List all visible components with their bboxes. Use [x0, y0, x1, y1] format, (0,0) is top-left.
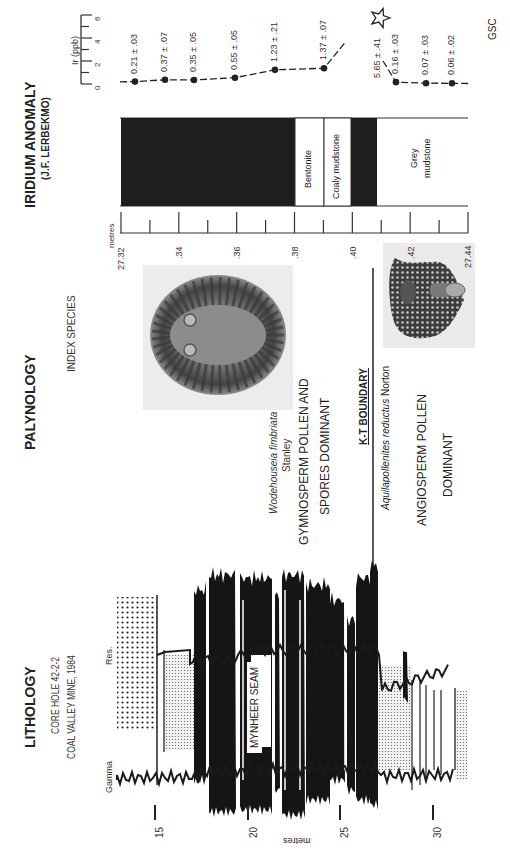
litho-tick-30: 30 — [432, 827, 443, 838]
unit-coal-upper — [121, 118, 295, 206]
depth-tick-6: 27.44 — [463, 245, 473, 268]
bentonite-label: Bentonite — [303, 150, 313, 188]
core-hole-label: CORE HOLE 42-2-2 — [50, 657, 61, 734]
grey-mudstone-label: Grey mudstone — [408, 138, 434, 178]
litho-axis-label: metres — [283, 836, 311, 846]
depth-tick-5: .42 — [406, 246, 416, 259]
wodehouseia-image — [143, 265, 293, 410]
zone-lower-line2: DOMINANT — [441, 433, 455, 497]
lithology-title: LITHOLOGY — [22, 666, 38, 748]
unit-siltstone-bottom — [455, 690, 467, 780]
ir-value-label: 0.16 ± .03 — [390, 34, 400, 74]
ir-data-point — [162, 76, 169, 83]
gamma-label: Gamma — [104, 761, 114, 793]
litho-tick-20: 20 — [248, 827, 259, 838]
ir-value-label: 5.65 ± .41 — [372, 38, 382, 78]
lithology-log — [117, 560, 467, 820]
ir-data-point — [423, 80, 430, 87]
litho-tick-25: 25 — [339, 827, 350, 838]
ir-value-label: 0.35 ± .05 — [188, 32, 198, 72]
coal-unit — [275, 592, 280, 793]
species-lower-author: Norton — [380, 366, 391, 396]
iridium-title: IRIDIUM ANOMALY — [22, 81, 38, 208]
res-label: Res. — [104, 646, 114, 665]
ir-tick-0: 0 — [93, 86, 102, 90]
pollen-spoke — [152, 331, 170, 333]
litho-tick-15: 15 — [154, 827, 165, 838]
depth-tick-0: 27.32 — [116, 247, 126, 270]
zone-lower-line1: ANGIOSPERM POLLEN — [415, 394, 429, 526]
ir-axis — [81, 15, 92, 84]
unit-coal-lower — [351, 118, 377, 206]
pollen-spoke — [220, 365, 221, 393]
coaly-mudstone-label: Coaly mudstone — [331, 134, 341, 199]
coal-unit — [209, 567, 236, 817]
iridium-author: (J.F. LERBEKMO) — [40, 97, 51, 180]
ir-peak-star-marker — [372, 9, 390, 28]
pollen-spoke — [211, 365, 213, 393]
zone-upper-line1: GYMNOSPERM POLLEN AND — [297, 378, 311, 545]
ir-data-point — [132, 78, 139, 85]
iridium-depth-scale — [120, 212, 468, 233]
index-species-label: INDEX SPECIES — [66, 295, 77, 372]
depth-tick-3: .38 — [290, 246, 300, 259]
depth-axis-label: metres — [107, 224, 116, 248]
iridium-plot — [120, 9, 470, 87]
depth-tick-4: .40 — [348, 246, 358, 259]
ir-value-label: 0.37 ± .07 — [159, 32, 169, 72]
palynology-title: PALYNOLOGY — [22, 354, 38, 450]
ir-axis-label: Ir (ppb) — [70, 36, 80, 65]
ir-data-point — [449, 80, 456, 87]
zone-upper-line2: SPORES DOMINANT — [318, 398, 332, 515]
ir-tick-2: 2 — [93, 63, 102, 67]
mynheer-seam-label: MYNHEER SEAM — [247, 662, 262, 753]
ir-value-label: 1.37 ± .07 — [318, 20, 328, 60]
species-lower: Aquilapollenites reductus Norton — [380, 366, 391, 510]
depth-tick-2: .36 — [232, 246, 242, 259]
ir-tick-4: 4 — [93, 40, 102, 44]
species-upper-name: Wodehouseia fimbriata — [268, 412, 279, 514]
unit-sandstone-coarse — [117, 597, 157, 731]
pollen-spoke — [152, 337, 170, 339]
ir-value-label: 0.21 ± .03 — [129, 34, 139, 74]
kt-boundary-label: K-T BOUNDARY — [358, 368, 369, 445]
coal-unit — [330, 592, 345, 785]
gsc-credit: GSC — [487, 18, 498, 40]
unit-sandstone-fine-upper — [165, 655, 194, 750]
ir-data-point — [393, 79, 400, 86]
depth-tick-1: .34 — [174, 246, 184, 259]
pollen-spoke — [211, 277, 213, 305]
ir-data-point — [321, 65, 328, 72]
ir-value-label: 0.06 ± .02 — [446, 35, 456, 75]
mine-label: COAL VALLEY MINE, 1984 — [66, 655, 77, 759]
aquilapollenites-image — [383, 243, 475, 348]
ir-data-point — [272, 67, 279, 74]
ir-data-point — [191, 77, 198, 84]
ir-value-label: 0.07 ± .03 — [420, 35, 430, 75]
ir-data-point — [232, 74, 239, 81]
species-upper-author: Stanley — [281, 439, 292, 472]
ir-value-label: 0.55 ± .05 — [229, 30, 239, 70]
pollen-spoke — [220, 277, 221, 305]
coal-unit — [194, 581, 206, 785]
ir-tick-6: 6 — [93, 17, 102, 21]
species-lower-name: Aquilapollenites reductus — [380, 399, 391, 510]
ir-value-label: 1.23 ± .21 — [269, 22, 279, 62]
